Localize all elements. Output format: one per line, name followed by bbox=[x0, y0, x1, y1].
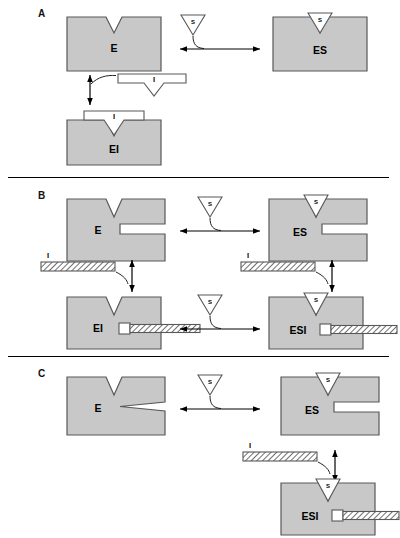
panel-a-label: A bbox=[38, 8, 45, 19]
enzyme-es-a-label: ES bbox=[313, 44, 327, 56]
equilibrium-arrow-horizontal-b-top bbox=[180, 228, 260, 234]
bound-inhibitor-i-label-a: I bbox=[113, 112, 115, 121]
enzyme-esi-c: S ESI bbox=[280, 482, 400, 538]
bound-substrate-s-label-c-bottom: S bbox=[326, 483, 330, 489]
reaction-e-i-b: I bbox=[28, 246, 144, 296]
equilibrium-arrow-vertical-b-right bbox=[329, 260, 335, 292]
bound-substrate-s-label-b-bottom: S bbox=[314, 297, 318, 303]
reaction-es-i-b: I bbox=[228, 246, 344, 296]
inhibitor-bar-b-right bbox=[241, 262, 315, 271]
bound-inhibitor-cap-c bbox=[332, 510, 343, 521]
substrate-s-label-a: S bbox=[191, 19, 195, 25]
inhibitor-bar-b-left bbox=[41, 262, 115, 271]
reaction-e-i-a: I bbox=[82, 72, 192, 108]
enzyme-esi-c-label: ESI bbox=[302, 510, 319, 522]
enzyme-e-b-label: E bbox=[94, 224, 101, 236]
enzyme-e-a: E bbox=[66, 16, 162, 72]
enzyme-e-c-label: E bbox=[94, 402, 101, 414]
reaction-ei-s-b: S bbox=[176, 292, 264, 340]
enzyme-esi-b: S ESI bbox=[268, 296, 398, 350]
inhibitor-bar-c bbox=[243, 452, 317, 461]
bound-inhibitor-cap-b bbox=[119, 323, 130, 334]
substrate-s-label-c: S bbox=[208, 379, 212, 385]
inhibitor-t-shape-a: I bbox=[118, 74, 186, 96]
substrate-s-label-b-bottom: S bbox=[208, 299, 212, 305]
substrate-triangle-a: S bbox=[181, 15, 205, 35]
equilibrium-arrow-horizontal-c bbox=[180, 406, 260, 412]
reaction-e-s-b: S bbox=[176, 194, 264, 242]
substrate-triangle-c: S bbox=[198, 375, 222, 395]
inhibitor-i-label-b-right: I bbox=[247, 251, 249, 260]
divider-b-c bbox=[8, 356, 389, 357]
panel-b-label: B bbox=[38, 190, 45, 201]
substrate-triangle-b-top: S bbox=[198, 197, 222, 217]
enzyme-ei-a: I EI bbox=[66, 110, 162, 166]
enzyme-es-b-label: ES bbox=[293, 226, 307, 238]
panel-c-label: C bbox=[38, 368, 45, 379]
bound-inhibitor-bar-c bbox=[343, 512, 399, 520]
enzyme-e-a-label: E bbox=[110, 42, 117, 54]
equilibrium-arrow-vertical-c bbox=[332, 450, 338, 482]
enzyme-es-a: S ES bbox=[272, 16, 368, 72]
bound-substrate-s-label-a: S bbox=[318, 17, 322, 23]
enzyme-e-c: E bbox=[66, 376, 166, 436]
equilibrium-arrow-horizontal-b-bottom bbox=[180, 326, 260, 332]
bound-substrate-s-label-b-top: S bbox=[314, 199, 318, 205]
panel-c: C E S S ES bbox=[0, 362, 397, 527]
reaction-e-s-a: S bbox=[176, 12, 264, 60]
panel-b: B E S S ES bbox=[0, 184, 397, 352]
equilibrium-arrow-horizontal-a bbox=[180, 46, 260, 52]
substrate-s-label-b-top: S bbox=[208, 201, 212, 207]
inhibitor-i-label-a: I bbox=[153, 75, 155, 84]
divider-a-b bbox=[8, 177, 389, 178]
reaction-e-s-c: S bbox=[176, 372, 264, 420]
bound-substrate-s-label-c-top: S bbox=[326, 377, 330, 383]
enzyme-es-c-label: ES bbox=[305, 404, 319, 416]
panel-a: A E S S ES bbox=[0, 0, 397, 175]
inhibitor-i-label-c: I bbox=[249, 441, 251, 450]
bound-inhibitor-cap-b2 bbox=[320, 324, 331, 335]
enzyme-ei-a-label: EI bbox=[109, 143, 119, 155]
equilibrium-arrow-vertical-b-left bbox=[129, 260, 135, 292]
inhibitor-i-label-b-left: I bbox=[47, 251, 49, 260]
enzyme-es-c: S ES bbox=[280, 376, 380, 436]
substrate-triangle-b-bottom: S bbox=[198, 295, 222, 315]
bound-inhibitor-bar-b2 bbox=[331, 326, 397, 334]
enzyme-esi-b-label: ESI bbox=[290, 324, 307, 336]
enzyme-ei-b-label: EI bbox=[93, 322, 103, 334]
equilibrium-arrow-vertical-a bbox=[87, 75, 93, 105]
